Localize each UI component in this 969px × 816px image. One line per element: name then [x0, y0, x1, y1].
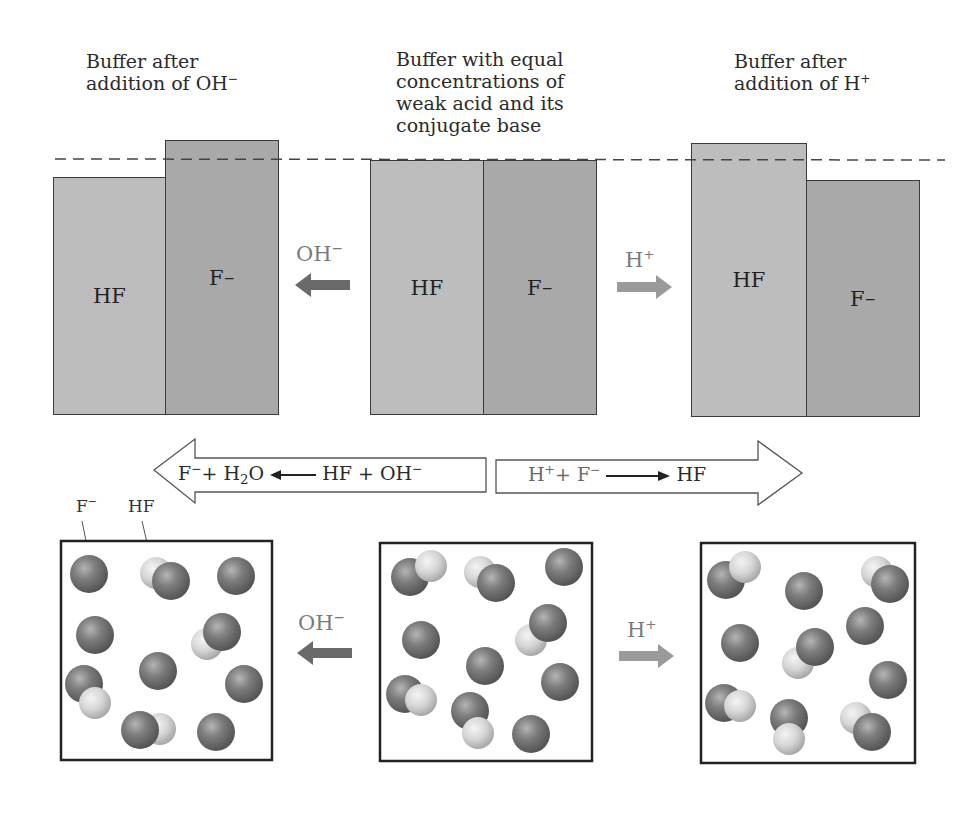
arrow-right-h-bottom-icon	[619, 643, 675, 669]
arrow-left-oh-bottom-icon	[297, 640, 353, 666]
h-label-bottom: H+	[627, 618, 657, 642]
oh-label-bottom: OH−	[298, 611, 345, 635]
molecule-panels	[0, 0, 969, 816]
